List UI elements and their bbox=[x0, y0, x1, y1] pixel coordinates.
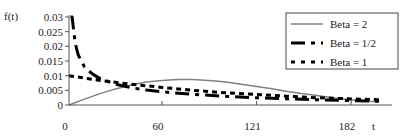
weibull-density-chart: 00.0050.010.0150.020.0250.03 060121182 f… bbox=[0, 0, 412, 140]
legend-label-beta-2: Beta = 2 bbox=[330, 18, 367, 30]
y-tick-label: 0.015 bbox=[38, 55, 63, 67]
y-tick-label: 0.025 bbox=[38, 26, 63, 38]
legend-label-beta-half: Beta = 1/2 bbox=[330, 37, 376, 49]
x-tick-label: 60 bbox=[153, 120, 165, 132]
y-axis-label: f(t) bbox=[4, 10, 18, 23]
y-tick-label: 0 bbox=[58, 99, 64, 111]
series-line-2 bbox=[69, 76, 379, 100]
x-tick-label: 121 bbox=[244, 120, 261, 132]
legend-label-beta-1: Beta = 1 bbox=[330, 56, 367, 68]
y-tick-label: 0.02 bbox=[44, 40, 63, 52]
x-axis-ticks: 060121182 bbox=[62, 101, 355, 132]
y-tick-label: 0.03 bbox=[44, 11, 64, 23]
y-tick-label: 0.005 bbox=[38, 84, 63, 96]
x-tick-label: 182 bbox=[339, 120, 356, 132]
y-axis-ticks: 00.0050.010.0150.020.0250.03 bbox=[38, 11, 69, 111]
x-tick-label: 0 bbox=[62, 120, 68, 132]
y-tick-label: 0.01 bbox=[44, 70, 63, 82]
x-axis-label: t bbox=[372, 120, 375, 132]
legend: Beta = 2 Beta = 1/2 Beta = 1 bbox=[286, 13, 398, 69]
